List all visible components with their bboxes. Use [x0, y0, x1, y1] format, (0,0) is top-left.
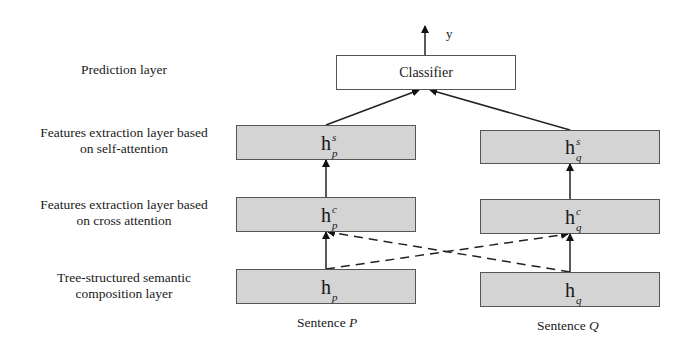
arrow-hqs-to-classifier	[430, 90, 570, 130]
sentence-q-label: Sentence Q	[537, 318, 599, 334]
label-cross-attention-layer: Features extraction layer based on cross…	[4, 197, 244, 229]
node-hq-self: hsq	[480, 130, 660, 164]
arrow-hps-to-classifier	[326, 90, 419, 125]
node-hq-cross: hcq	[480, 199, 660, 234]
node-hp-self: hsp	[236, 125, 416, 160]
output-y-label: y	[446, 26, 453, 42]
sentence-p-label: Sentence P	[297, 315, 357, 331]
node-hp-cross: hcp	[236, 197, 416, 232]
classifier-box: Classifier	[336, 55, 516, 90]
node-hp: hp	[236, 269, 416, 304]
label-tree-composition-layer: Tree-structured semantic composition lay…	[4, 270, 244, 302]
node-hq: hq	[480, 272, 660, 307]
label-self-attention-layer: Features extraction layer based on self-…	[4, 125, 244, 157]
dashed-arrow-hq-to-hpc	[328, 232, 570, 272]
label-prediction-layer: Prediction layer	[4, 62, 244, 78]
classifier-label: Classifier	[399, 65, 453, 81]
